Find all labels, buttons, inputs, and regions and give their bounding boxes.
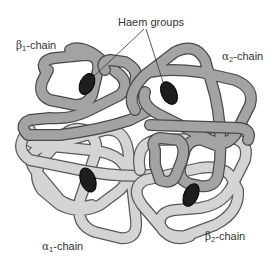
label-suffix: -chain bbox=[26, 39, 56, 51]
label-suffix: -chain bbox=[215, 230, 245, 242]
beta1-chain-label: β1-chain bbox=[16, 39, 56, 53]
haem-group-alpha2 bbox=[157, 79, 181, 107]
haem-groups-label: Haem groups bbox=[118, 16, 184, 28]
beta2-chain-label: β2-chain bbox=[205, 230, 245, 244]
label-suffix: -chain bbox=[53, 240, 83, 252]
alpha1-chain-label: α1-chain bbox=[42, 240, 83, 254]
label-suffix: -chain bbox=[233, 50, 263, 62]
alpha2-chain-label: α2-chain bbox=[222, 50, 263, 64]
